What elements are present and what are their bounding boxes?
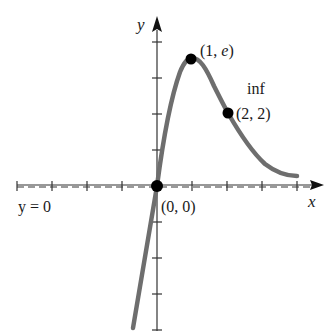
- point-origin-label: (0, 0): [161, 198, 196, 216]
- y-axis-label: y: [135, 15, 145, 34]
- x-axis-arrow-icon: [310, 180, 324, 190]
- function-graph: y x y = 0 (1, e) inf (2, 2) (0, 0): [0, 0, 332, 335]
- point-inflection-label: (2, 2): [236, 105, 271, 123]
- origin-point-dot: [151, 180, 163, 192]
- max-point-dot: [186, 54, 197, 65]
- asymptote-label: y = 0: [18, 198, 51, 216]
- y-axis-arrow-icon: [152, 16, 162, 32]
- x-axis-label: x: [307, 192, 316, 211]
- inflection-note-label: inf: [247, 80, 265, 97]
- point-max-label: (1, e): [200, 42, 234, 60]
- function-curve: [133, 58, 297, 328]
- inflection-point-dot: [223, 108, 234, 119]
